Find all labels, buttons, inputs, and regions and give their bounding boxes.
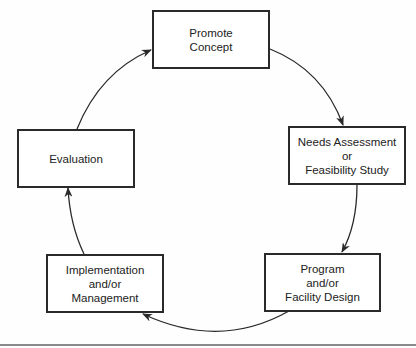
node-implementation: Implementation and/or Management <box>46 254 164 313</box>
node-evaluation: Evaluation <box>17 129 135 188</box>
node-label-line: Needs Assessment <box>298 135 396 149</box>
arrow-program-to-implementation <box>143 311 289 331</box>
cycle-diagram: Promote Concept Needs Assessment or Feas… <box>0 0 416 348</box>
node-promote-concept: Promote Concept <box>152 10 270 69</box>
arrow-implementation-to-evaluation <box>68 188 84 254</box>
node-label-line: Facility Design <box>285 290 360 304</box>
node-label-line: and/or <box>66 277 145 291</box>
node-label-line: Feasibility Study <box>298 163 396 177</box>
node-label-line: Concept <box>189 40 232 54</box>
bottom-rule <box>0 344 416 346</box>
node-label-line: Program <box>285 262 360 276</box>
node-label-line: and/or <box>285 276 360 290</box>
arrow-evaluation-to-promote <box>77 50 151 129</box>
node-label-line: Implementation <box>66 263 145 277</box>
arrow-needs-to-program <box>342 185 357 252</box>
node-label-line: Promote <box>189 26 232 40</box>
node-program-design: Program and/or Facility Design <box>264 253 381 312</box>
node-needs-assessment: Needs Assessment or Feasibility Study <box>288 126 406 185</box>
arrow-promote-to-needs <box>270 49 343 125</box>
node-label-line: Management <box>66 291 145 305</box>
node-label-line: or <box>298 149 396 163</box>
node-label-line: Evaluation <box>49 152 103 166</box>
